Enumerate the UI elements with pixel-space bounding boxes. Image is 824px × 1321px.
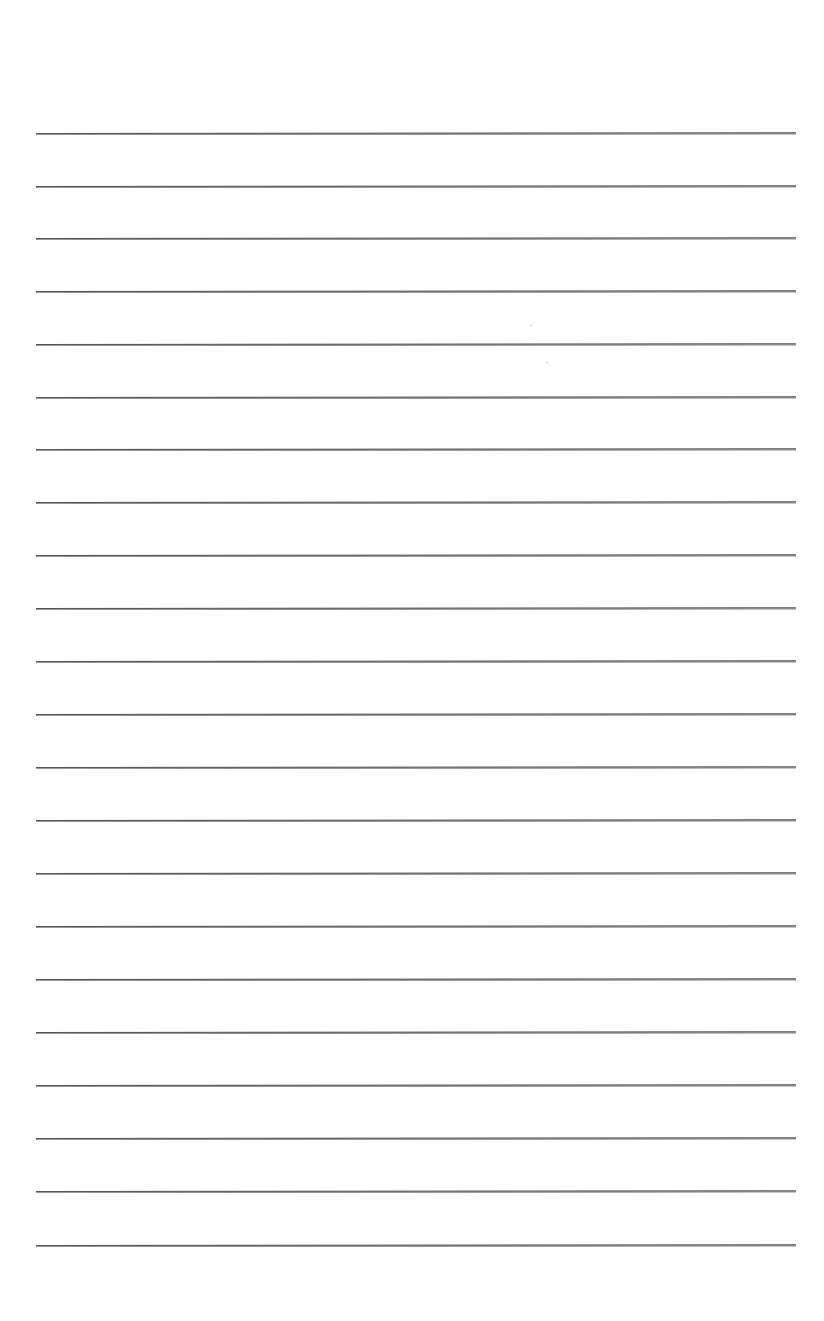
ruled-line <box>36 978 796 981</box>
ruled-line <box>36 396 796 399</box>
ruled-line <box>36 343 796 346</box>
ruled-line <box>36 132 796 135</box>
ruled-line <box>36 766 796 769</box>
ruled-line <box>36 237 796 240</box>
ruled-line <box>36 290 796 293</box>
ruled-line <box>36 607 796 610</box>
ruled-line <box>36 1244 796 1247</box>
ruled-line <box>36 501 796 504</box>
ruled-line <box>36 872 796 875</box>
ruled-line <box>36 1137 796 1140</box>
ruled-line <box>36 1084 796 1087</box>
ruled-line <box>36 660 796 663</box>
ruled-line <box>36 713 796 716</box>
ruled-line <box>36 185 796 188</box>
ruled-line <box>36 448 796 451</box>
lined-paper-page <box>0 0 824 1321</box>
ruled-line <box>36 1031 796 1034</box>
ruled-line <box>36 1190 796 1193</box>
ruled-line <box>36 925 796 928</box>
paper-speck <box>530 325 532 326</box>
paper-speck <box>546 362 548 363</box>
ruled-line <box>36 819 796 822</box>
ruled-line <box>36 554 796 557</box>
